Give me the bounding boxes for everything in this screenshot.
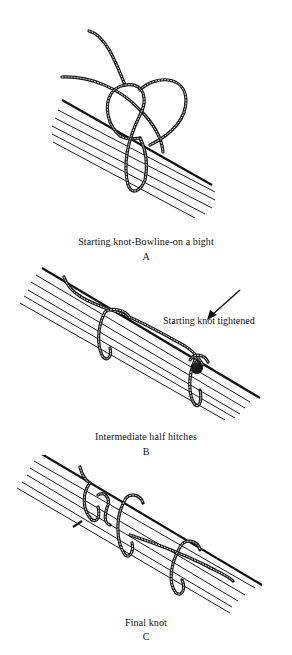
bundle-strands	[52, 100, 215, 218]
panel-letter-c: C	[0, 631, 292, 642]
panel-a: Starting knot-Bowline-on a bight A	[0, 0, 292, 265]
caption-a: Starting knot-Bowline-on a bight	[0, 236, 292, 247]
panel-b: Starting knot tightened Intermediate hal…	[0, 260, 292, 455]
bundle-strands	[20, 268, 260, 420]
bowline-on-a-bight-illustration	[0, 0, 292, 230]
panel-c: Final knot C	[0, 455, 292, 655]
final-knot-illustration	[0, 455, 292, 625]
caption-c: Final knot	[0, 617, 292, 628]
rope	[64, 277, 208, 406]
caption-b: Intermediate half hitches	[0, 431, 292, 442]
bundle-strands	[17, 455, 262, 613]
callout-starting-knot-tightened: Starting knot tightened	[163, 315, 255, 326]
intermediate-half-hitches-illustration	[0, 260, 292, 420]
